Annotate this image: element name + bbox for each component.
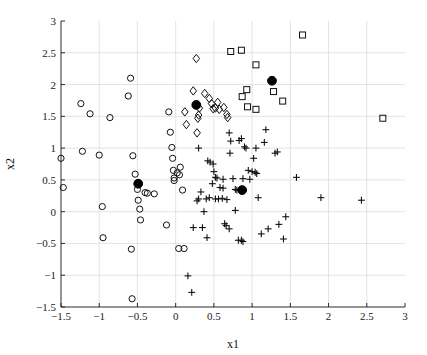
y-tick-label: 1.5 — [42, 110, 56, 122]
data-point-plus — [240, 238, 247, 245]
data-point-square — [244, 87, 250, 93]
data-point-plus — [265, 225, 272, 232]
data-point-diamond — [206, 94, 213, 102]
data-point-square — [238, 47, 244, 53]
data-point-circle — [87, 111, 93, 117]
data-point-filled-circle — [268, 76, 277, 85]
series-cluster-4 — [228, 32, 386, 121]
data-point-circle — [135, 197, 141, 203]
x-axis-title: x1 — [227, 337, 239, 351]
x-tick-label: 3 — [402, 310, 408, 322]
data-point-circle — [130, 153, 136, 159]
x-tick-label: 0 — [173, 310, 179, 322]
data-point-plus — [219, 195, 226, 202]
data-point-circle — [129, 296, 135, 302]
data-point-plus — [217, 184, 224, 191]
data-point-filled-circle — [192, 100, 201, 109]
data-point-circle — [78, 101, 84, 107]
y-tick-label: −1 — [44, 269, 56, 281]
data-point-circle — [107, 115, 113, 121]
y-axis-title: x2 — [3, 158, 17, 170]
data-point-square — [239, 94, 245, 100]
data-point-plus — [215, 196, 222, 203]
data-point-square — [271, 89, 277, 95]
data-point-plus — [258, 231, 265, 238]
x-tick-label: 1.5 — [283, 310, 297, 322]
data-point-plus — [255, 194, 262, 201]
data-point-plus — [197, 189, 204, 196]
data-point-plus — [245, 167, 252, 174]
data-point-plus — [214, 175, 221, 182]
data-point-square — [253, 106, 259, 112]
data-point-circle — [125, 93, 131, 99]
data-point-circle — [79, 148, 85, 154]
data-point-plus — [206, 194, 213, 201]
data-point-plus — [226, 129, 233, 136]
plot-canvas: −1.5−1−0.500.511.522.53−1.5−1−0.500.511.… — [0, 0, 427, 355]
data-point-plus — [261, 139, 268, 146]
data-point-plus — [227, 138, 234, 145]
data-point-plus — [188, 289, 195, 296]
y-tick-label: −0.5 — [36, 237, 56, 249]
x-tick-label: 2 — [326, 310, 332, 322]
tick-marks — [61, 21, 405, 307]
scatter-plot-figure: −1.5−1−0.500.511.522.53−1.5−1−0.500.511.… — [0, 0, 427, 355]
data-point-circle — [151, 191, 157, 197]
data-point-plus — [282, 213, 289, 220]
data-point-square — [300, 32, 306, 38]
y-tick-label: 0 — [51, 206, 57, 218]
data-point-plus — [280, 236, 287, 243]
data-point-circle — [128, 246, 134, 252]
data-point-square — [280, 98, 286, 104]
data-point-plus — [223, 196, 230, 203]
data-point-plus — [204, 234, 211, 241]
y-tick-label: 1 — [51, 142, 57, 154]
data-point-plus — [195, 145, 202, 152]
data-point-plus — [209, 180, 216, 187]
data-point-plus — [232, 207, 239, 214]
data-point-plus — [226, 225, 233, 232]
x-tick-label: −0.5 — [127, 310, 147, 322]
data-point-plus — [243, 145, 250, 152]
axes — [61, 21, 405, 307]
data-point-plus — [184, 272, 191, 279]
data-point-plus — [220, 185, 227, 192]
data-point-plus — [250, 155, 257, 162]
data-point-circle — [169, 144, 175, 150]
data-point-diamond — [194, 129, 201, 137]
data-point-diamond — [201, 89, 208, 97]
data-point-plus — [238, 237, 245, 244]
data-point-plus — [318, 194, 325, 201]
series-cluster-2 — [182, 54, 231, 137]
data-point-filled-circle — [134, 179, 143, 188]
series-centroids — [134, 76, 277, 194]
y-tick-label: 2.5 — [42, 47, 56, 59]
tick-labels: −1.5−1−0.500.511.522.53−1.5−1−0.500.511.… — [36, 15, 408, 322]
data-point-plus — [275, 221, 282, 228]
series-cluster-3 — [184, 126, 364, 296]
data-point-plus — [203, 196, 210, 203]
data-point-diamond — [182, 108, 189, 116]
data-point-circle — [163, 222, 169, 228]
data-point-plus — [199, 224, 206, 231]
data-point-plus — [220, 176, 227, 183]
data-point-plus — [253, 145, 260, 152]
y-tick-label: 2 — [51, 79, 57, 91]
y-tick-label: −1.5 — [36, 301, 56, 313]
data-point-plus — [252, 169, 259, 176]
data-point-diamond — [183, 120, 190, 128]
data-point-diamond — [190, 87, 197, 95]
data-point-plus — [210, 168, 217, 175]
data-point-plus — [240, 175, 247, 182]
data-point-square — [228, 49, 234, 55]
series-cluster-1 — [58, 75, 187, 302]
data-point-plus — [241, 143, 248, 150]
data-point-circle — [137, 217, 143, 223]
data-point-circle — [99, 203, 105, 209]
data-point-circle — [179, 187, 185, 193]
data-point-square — [245, 104, 251, 110]
data-point-plus — [358, 197, 365, 204]
grid-lines — [61, 21, 405, 307]
data-point-circle — [100, 235, 106, 241]
data-point-circle — [166, 109, 172, 115]
